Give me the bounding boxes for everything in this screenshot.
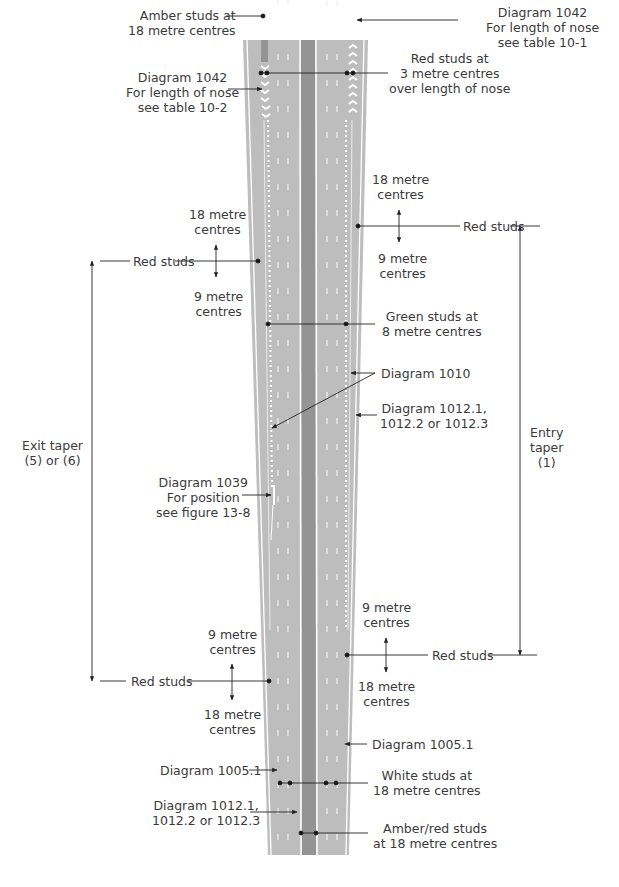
label-entry-taper: Entry taper (1) — [530, 425, 563, 470]
central-reservation — [301, 40, 316, 855]
label-diagram-1012-left: Diagram 1012.1, 1012.2 or 1012.3 — [152, 798, 260, 828]
label-right-lower-red-studs: Red studs — [432, 648, 494, 663]
label-right-upper-red-studs: Red studs — [463, 219, 525, 234]
road-marking-diagram — [0, 0, 619, 887]
label-left-upper-18: 18 metre centres — [189, 207, 246, 237]
label-left-lower-9: 9 metre centres — [208, 627, 257, 657]
label-diagram-1005-right: Diagram 1005.1 — [372, 737, 473, 752]
label-right-lower-9: 9 metre centres — [362, 600, 411, 630]
label-diagram-1042-left: Diagram 1042 For length of nose see tabl… — [126, 70, 239, 115]
label-right-upper-9: 9 metre centres — [378, 251, 427, 281]
label-left-lower-red-studs: Red studs — [131, 674, 193, 689]
label-right-upper-18: 18 metre centres — [372, 172, 429, 202]
label-diagram-1005-left: Diagram 1005.1 — [160, 763, 261, 778]
label-white-studs: White studs at 18 metre centres — [373, 768, 481, 798]
label-diagram-1012-right: Diagram 1012.1, 1012.2 or 1012.3 — [380, 401, 488, 431]
label-amber-studs-top: Amber studs at 18 metre centres — [128, 8, 236, 38]
label-diagram-1042-right: Diagram 1042 For length of nose see tabl… — [486, 5, 599, 50]
label-right-lower-18: 18 metre centres — [358, 679, 415, 709]
label-left-upper-9: 9 metre centres — [194, 289, 243, 319]
label-left-upper-red-studs: Red studs — [133, 254, 195, 269]
label-diagram-1010: Diagram 1010 — [381, 366, 470, 381]
label-diagram-1039: Diagram 1039 For position see figure 13-… — [156, 475, 251, 520]
label-red-studs-nose: Red studs at 3 metre centres over length… — [389, 51, 510, 96]
label-green-studs: Green studs at 8 metre centres — [382, 309, 482, 339]
label-left-lower-18: 18 metre centres — [204, 707, 261, 737]
label-exit-taper: Exit taper (5) or (6) — [22, 438, 83, 468]
label-amber-red-studs: Amber/red studs at 18 metre centres — [373, 821, 497, 851]
